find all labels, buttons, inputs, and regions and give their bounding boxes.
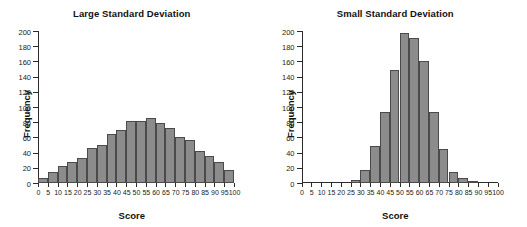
x-tick: 35 (107, 183, 108, 187)
histogram-bar (205, 156, 215, 183)
x-tick-label: 90 (211, 189, 219, 196)
y-tick-label: 160 (18, 57, 31, 66)
bar-series (302, 31, 498, 183)
x-tick-label: 0 (300, 189, 304, 196)
x-tick: 0 (38, 183, 39, 187)
y-tick-label: 0 (290, 179, 294, 188)
y-tick: 100 (33, 107, 38, 108)
x-tick: 90 (478, 183, 479, 187)
x-tick: 70 (175, 183, 176, 187)
x-tick-label: 25 (347, 189, 355, 196)
y-tick: 80 (297, 122, 302, 123)
x-tick: 60 (419, 183, 420, 187)
histogram-bar (87, 148, 97, 183)
x-tick-label: 70 (172, 189, 180, 196)
x-tick-label: 20 (74, 189, 82, 196)
x-tick-label: 85 (201, 189, 209, 196)
y-tick: 120 (33, 92, 38, 93)
histogram-bar (58, 166, 68, 183)
x-tick: 15 (67, 183, 68, 187)
x-tick-label: 0 (37, 189, 41, 196)
x-tick-label: 55 (142, 189, 150, 196)
y-tick: 180 (33, 46, 38, 47)
histogram-bar (107, 134, 117, 183)
x-tick-label: 60 (152, 189, 160, 196)
y-tick-label: 140 (18, 73, 31, 82)
x-tick: 55 (409, 183, 410, 187)
chart-panel-large-sd: Large Standard Deviation Frequency 02040… (0, 0, 264, 227)
x-tick: 45 (390, 183, 391, 187)
histogram-bar (419, 61, 429, 183)
x-tick-label: 95 (484, 189, 492, 196)
x-tick: 45 (126, 183, 127, 187)
y-tick-label: 60 (286, 133, 294, 142)
x-tick-label: 55 (406, 189, 414, 196)
y-tick-label: 20 (286, 164, 294, 173)
histogram-bar (185, 140, 195, 183)
x-tick-label: 35 (103, 189, 111, 196)
x-tick-label: 75 (445, 189, 453, 196)
histogram-bar (48, 172, 58, 183)
y-tick-label: 80 (286, 118, 294, 127)
bar-series (38, 31, 234, 183)
x-tick: 25 (351, 183, 352, 187)
x-tick-label: 60 (416, 189, 424, 196)
x-tick-label: 45 (386, 189, 394, 196)
y-tick: 40 (33, 153, 38, 154)
y-tick-label: 100 (282, 103, 295, 112)
x-tick-label: 65 (162, 189, 170, 196)
x-tick-label: 5 (46, 189, 50, 196)
x-tick: 85 (205, 183, 206, 187)
x-tick-label: 100 (229, 189, 241, 196)
x-tick-label: 80 (455, 189, 463, 196)
x-tick: 65 (165, 183, 166, 187)
x-tick-label: 90 (474, 189, 482, 196)
y-tick: 160 (33, 61, 38, 62)
x-tick: 5 (48, 183, 49, 187)
y-tick-label: 160 (282, 57, 295, 66)
x-tick-label: 35 (367, 189, 375, 196)
x-tick-label: 100 (492, 189, 504, 196)
x-tick: 25 (87, 183, 88, 187)
x-tick: 40 (380, 183, 381, 187)
histogram-bar (116, 130, 126, 183)
x-tick: 55 (146, 183, 147, 187)
y-tick-label: 140 (282, 73, 295, 82)
histogram-bar (390, 70, 400, 183)
x-tick-label: 65 (425, 189, 433, 196)
x-tick-label: 85 (465, 189, 473, 196)
x-tick: 30 (360, 183, 361, 187)
histogram-bar (67, 162, 77, 183)
x-tick: 50 (400, 183, 401, 187)
histogram-bar (458, 178, 468, 183)
y-tick-label: 200 (282, 27, 295, 36)
x-tick: 80 (458, 183, 459, 187)
y-tick: 80 (33, 122, 38, 123)
histogram-bar (195, 151, 205, 183)
x-tick: 20 (77, 183, 78, 187)
histogram-bar (175, 137, 185, 183)
y-tick-label: 180 (282, 42, 295, 51)
histogram-bar (38, 178, 48, 183)
x-tick-label: 10 (318, 189, 326, 196)
y-tick-label: 40 (23, 149, 31, 158)
x-tick: 80 (195, 183, 196, 187)
y-tick: 160 (297, 61, 302, 62)
histogram-bar (409, 38, 419, 183)
x-tick-label: 50 (396, 189, 404, 196)
y-tick-label: 200 (18, 27, 31, 36)
x-tick: 20 (341, 183, 342, 187)
y-tick: 140 (33, 77, 38, 78)
x-tick-label: 95 (221, 189, 229, 196)
y-tick: 40 (297, 153, 302, 154)
histogram-bar (97, 145, 107, 183)
histogram-bar (429, 112, 439, 183)
histogram-bar (165, 128, 175, 183)
histogram-bar (214, 162, 224, 183)
x-tick: 100 (234, 183, 235, 187)
x-tick-label: 75 (182, 189, 190, 196)
x-tick: 75 (449, 183, 450, 187)
plot-area: 020406080100120140160180200 051015202530… (302, 31, 498, 183)
y-tick-label: 20 (23, 164, 31, 173)
x-tick-label: 15 (327, 189, 335, 196)
